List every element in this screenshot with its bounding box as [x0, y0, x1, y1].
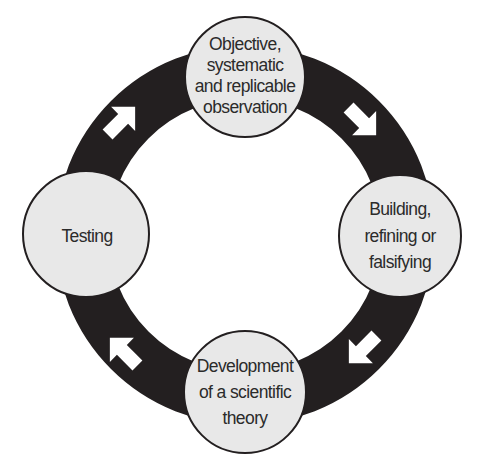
cycle-diagram: Objective, systematic and replicable obs… — [0, 0, 483, 457]
node-development-line: Development — [197, 356, 294, 376]
node-development-line: of a scientific — [199, 382, 292, 402]
node-development-line: theory — [222, 408, 268, 428]
node-building-line: refining or — [364, 226, 436, 246]
node-observation-line: Objective, — [209, 34, 281, 54]
node-observation-line: systematic — [207, 55, 285, 75]
node-observation-line: observation — [203, 97, 287, 117]
node-building-line: Building, — [369, 199, 431, 219]
node-observation-line: and replicable — [195, 76, 296, 96]
node-testing: Testing — [23, 171, 149, 297]
node-building-line: falsifying — [369, 252, 431, 272]
node-development: Development of a scientific theory — [184, 331, 306, 453]
node-testing-line: Testing — [61, 226, 112, 246]
node-building: Building, refining or falsifying — [339, 175, 461, 297]
node-observation: Objective, systematic and replicable obs… — [185, 17, 305, 137]
